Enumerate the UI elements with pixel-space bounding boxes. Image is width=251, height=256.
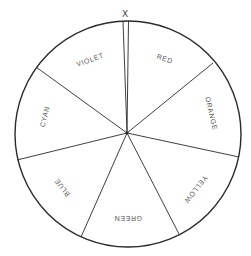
segment-label-green: GREEN — [114, 215, 142, 222]
segment-label-yellow: YELLOW — [183, 174, 209, 204]
divider-cyan-violet — [36, 67, 127, 133]
color-wheel-diagram: X RED ORANGE YELLOW GREEN BLUE CYAN VIOL… — [0, 0, 251, 256]
divider-orange-yellow — [127, 133, 239, 157]
segment-label-cyan: CYAN — [39, 105, 51, 127]
marker-line-right — [127, 21, 129, 133]
segment-label-violet: VIOLET — [76, 51, 105, 67]
segment-label-red: RED — [156, 53, 174, 65]
divider-blue-cyan — [17, 133, 127, 160]
marker-line-left — [123, 21, 127, 133]
center-point — [125, 131, 128, 134]
segment-label-blue: BLUE — [53, 177, 71, 198]
divider-red-orange — [127, 63, 213, 133]
segment-label-orange: ORANGE — [204, 96, 218, 131]
marker-label: X — [122, 9, 128, 19]
